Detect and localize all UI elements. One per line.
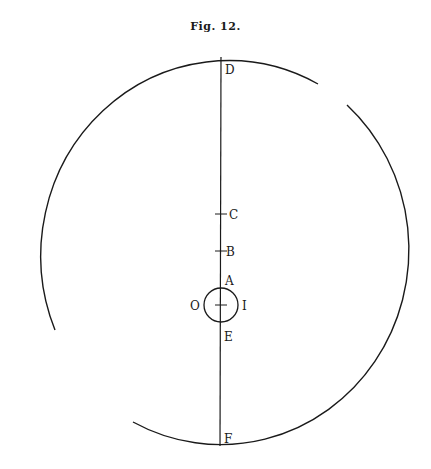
label-O: O	[190, 299, 200, 313]
label-I: I	[242, 299, 247, 313]
orbit-arc-lower	[133, 105, 409, 445]
label-F: F	[224, 432, 232, 446]
label-C: C	[229, 208, 238, 222]
orbit-arc-upper	[41, 61, 318, 330]
label-B: B	[226, 245, 235, 259]
label-D: D	[225, 63, 235, 77]
orbit-diagram: D C B A O I E F	[0, 0, 431, 469]
label-E: E	[224, 330, 233, 344]
label-A: A	[224, 274, 234, 288]
